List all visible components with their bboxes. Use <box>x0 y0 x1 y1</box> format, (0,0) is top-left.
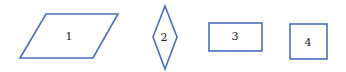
shape-3-label: 3 <box>232 30 239 43</box>
shape-1-label: 1 <box>66 30 73 43</box>
shapes-diagram: 1 2 3 4 <box>0 0 346 72</box>
shape-2-rhombus: 2 <box>153 6 177 69</box>
shape-4-square: 4 <box>290 24 327 59</box>
shape-1-parallelogram: 1 <box>20 14 118 58</box>
shape-2-label: 2 <box>161 31 168 44</box>
shape-4-label: 4 <box>305 36 312 49</box>
shape-3-rectangle: 3 <box>209 23 262 51</box>
